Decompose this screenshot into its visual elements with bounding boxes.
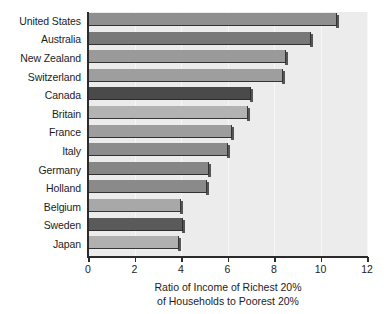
bar-row	[88, 179, 367, 198]
bar-row	[88, 12, 367, 31]
bar-row	[88, 161, 367, 180]
category-label: Sweden	[0, 217, 84, 236]
x-axis-tick-label: 10	[315, 263, 327, 275]
plot-area	[88, 12, 367, 256]
bar	[88, 106, 248, 119]
x-axis-tick	[181, 257, 183, 262]
bar	[88, 218, 183, 231]
bar	[88, 50, 286, 63]
bar	[88, 143, 228, 156]
bar-row	[88, 105, 367, 124]
category-label: Belgium	[0, 198, 84, 217]
bar-row	[88, 198, 367, 217]
category-axis-labels: United StatesAustraliaNew ZealandSwitzer…	[0, 12, 84, 254]
category-label: Switzerland	[0, 68, 84, 87]
x-axis-tick	[135, 257, 137, 262]
bar-row	[88, 124, 367, 143]
x-axis-tick	[321, 257, 323, 262]
bar-row	[88, 217, 367, 236]
bar	[88, 199, 181, 212]
category-label: Canada	[0, 86, 84, 105]
bar	[88, 236, 179, 249]
gridline	[367, 12, 368, 256]
bar-row	[88, 235, 367, 254]
category-label: New Zealand	[0, 49, 84, 68]
bar-row	[88, 86, 367, 105]
category-label: Japan	[0, 235, 84, 254]
x-axis-title-line1: Ratio of Income of Richest 20%	[88, 281, 368, 295]
x-axis-tick-label: 12	[361, 263, 373, 275]
category-label: Italy	[0, 142, 84, 161]
x-axis-tick-label: 4	[178, 263, 184, 275]
x-axis-title: Ratio of Income of Richest 20% of Househ…	[88, 281, 368, 308]
bar-chart: United StatesAustraliaNew ZealandSwitzer…	[0, 0, 388, 314]
bar	[88, 13, 337, 26]
bar	[88, 180, 207, 193]
category-label: Holland	[0, 179, 84, 198]
category-label: France	[0, 124, 84, 143]
x-axis-tick	[367, 257, 369, 262]
category-label: Germany	[0, 161, 84, 180]
category-label: Britain	[0, 105, 84, 124]
bar	[88, 69, 283, 82]
bar	[88, 87, 251, 100]
x-axis-tick	[88, 257, 90, 262]
bar-row	[88, 68, 367, 87]
bar-row	[88, 31, 367, 50]
x-axis-tick-label: 8	[271, 263, 277, 275]
bar	[88, 125, 232, 138]
bar	[88, 32, 311, 45]
bar-row	[88, 49, 367, 68]
category-label: Australia	[0, 31, 84, 50]
bar-series	[88, 12, 367, 256]
x-axis-tick-label: 2	[132, 263, 138, 275]
x-axis-tick	[274, 257, 276, 262]
bar	[88, 162, 209, 175]
y-axis-line	[87, 12, 89, 257]
x-axis-tick	[228, 257, 230, 262]
x-axis-title-line2: of Households to Poorest 20%	[88, 295, 368, 309]
x-axis-tick-label: 6	[225, 263, 231, 275]
x-axis-tick-label: 0	[85, 263, 91, 275]
category-label: United States	[0, 12, 84, 31]
bar-row	[88, 142, 367, 161]
